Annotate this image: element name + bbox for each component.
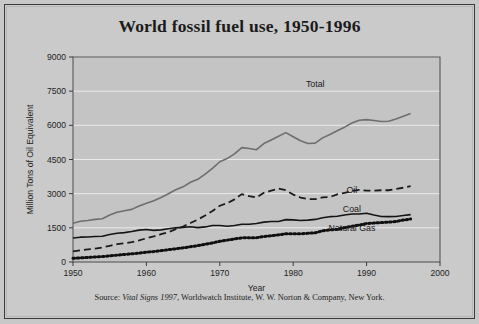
tick-label-x: 1960	[137, 268, 156, 278]
tick-label-x: 2000	[430, 268, 449, 278]
tick-label-x: 1950	[63, 268, 82, 278]
source-rest: , Worldwatch Institute, W. W. Norton & C…	[177, 293, 385, 302]
tick-label-y: 9000	[47, 52, 66, 62]
source-prefix: Source:	[95, 293, 123, 302]
source-publication: Vital Signs 1997	[122, 293, 177, 302]
series-label-natural-gas: Natural Gas	[328, 223, 376, 233]
y-axis-title: Million Tons of Oil Equivalent	[25, 104, 35, 214]
tick-label-y: 0	[61, 257, 66, 267]
tick-label-y: 4500	[47, 155, 66, 165]
tick-label-y: 1500	[47, 223, 66, 233]
tick-label-x: 1990	[357, 268, 376, 278]
series-label-total: Total	[306, 79, 325, 89]
tick-label-y: 7500	[47, 86, 66, 96]
tick-label-y: 6000	[47, 120, 66, 130]
x-axis-title: Year	[248, 283, 266, 293]
tick-label-y: 3000	[47, 189, 66, 199]
figure-container: World fossil fuel use, 1950-1996 0150030…	[0, 0, 479, 324]
chart-plot: 0150030004500600075009000195019601970198…	[0, 0, 479, 324]
series-label-coal: Coal	[343, 204, 361, 214]
tick-label-x: 1970	[210, 268, 229, 278]
series-label-oil: Oil	[347, 185, 358, 195]
source-caption: Source: Vital Signs 1997, Worldwatch Ins…	[0, 293, 479, 302]
tick-label-x: 1980	[284, 268, 303, 278]
